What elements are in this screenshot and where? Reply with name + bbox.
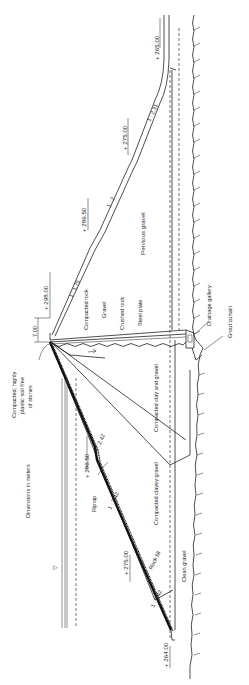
- pervious-gravel-label: Pervious gravel: [139, 212, 146, 255]
- crest-width-label: 7.00: [32, 326, 38, 337]
- plastic-soil-label-line2: plastic soil free: [19, 377, 25, 414]
- dam-core-zones: [50, 330, 190, 600]
- rock-fill-label: Rock fill: [148, 550, 162, 570]
- dam-cross-section-diagram: ▽ + 265.00 + 275.00 + 286.50 + 298.00 1 …: [0, 0, 249, 685]
- clean-gravel-label: Clean gravel: [181, 551, 187, 582]
- elevation-265: + 265.00: [153, 35, 160, 60]
- compacted-clay-gravel-label: Compacted clay and gravel: [153, 364, 159, 432]
- drainage-gallery-label: Drainage gallery: [206, 285, 212, 326]
- elevation-275-downstream: + 275.00: [121, 125, 128, 150]
- grout-curtain-label: Grout curtain: [227, 306, 233, 338]
- leader-lines: [39, 322, 223, 475]
- elevation-275-upstream: + 275.00: [122, 550, 129, 575]
- elevation-264: + 264.00: [162, 642, 169, 667]
- steel-plate-label: Steel plate: [137, 300, 143, 326]
- reservoir-water-lines: [62, 378, 76, 628]
- compacted-rock-label: Compacted rock: [83, 289, 89, 330]
- riprap-label: Riprap: [91, 496, 97, 512]
- water-level-symbol: ▽: [51, 565, 58, 570]
- upstream-ratio-1: 1 : 2.42: [93, 433, 107, 452]
- dimensions-note: Dimensions in meters: [25, 464, 31, 518]
- plastic-soil-label-line1: Compacted, highly: [11, 371, 17, 418]
- bedrock-foundation-line: [190, 15, 205, 679]
- elevation-298: + 298.00: [42, 285, 49, 310]
- drainage-gallery: [186, 330, 194, 348]
- slope-ratio-1-2-31: 1 : 2.31: [146, 103, 160, 122]
- compacted-clayey-gravel-label: Compacted clayey gravel: [153, 462, 159, 525]
- elevation-286-50-downstream: + 286.50: [80, 207, 87, 232]
- slope-ratio-1-1-75: 1 : 1.75: [68, 279, 82, 298]
- plastic-soil-label-line3: of stones: [27, 385, 33, 408]
- elevation-286-50-upstream: + 286.50: [83, 453, 90, 478]
- gravel-label: Gravel: [101, 302, 107, 318]
- crushed-rock-label: Crushed rock: [119, 297, 125, 330]
